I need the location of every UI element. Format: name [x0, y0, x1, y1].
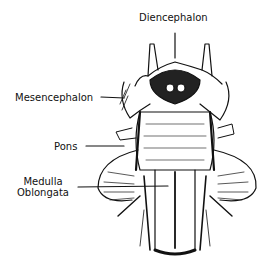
mesencephalon-label: Mesencephalon — [15, 92, 93, 103]
mesencephalon-leader — [101, 97, 124, 98]
medulla-oblongata-label: Medulla Oblongata — [17, 176, 69, 198]
pons-label: Pons — [54, 141, 77, 152]
medulla-label-line2: Oblongata — [17, 187, 69, 198]
brainstem-illustration — [0, 0, 279, 272]
diencephalon-label: Diencephalon — [139, 12, 208, 23]
medulla-label-line1: Medulla — [17, 176, 69, 187]
